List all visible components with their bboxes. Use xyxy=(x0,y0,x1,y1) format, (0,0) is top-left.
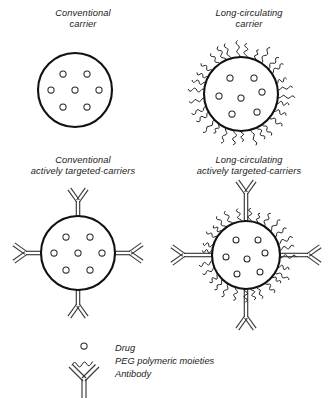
legend-symbols xyxy=(58,338,110,400)
antibody-segment xyxy=(247,182,256,194)
panel-label-long-circulating-actively-targeted: Long-circulating actively targeted-carri… xyxy=(166,155,332,178)
drug-circle xyxy=(51,250,57,256)
drug-circle xyxy=(48,87,54,93)
antibody-segment xyxy=(173,256,185,265)
drug-circle xyxy=(259,89,265,95)
antibody xyxy=(13,243,43,263)
legend: Drug PEG polymeric moieties Antibody xyxy=(58,338,288,400)
carrier-shell-circle xyxy=(212,221,280,289)
antibody-segment xyxy=(236,316,245,328)
drug-circle xyxy=(251,75,257,81)
label-line-2: carrier xyxy=(0,19,166,30)
antibody-segment xyxy=(129,243,141,252)
label-line-2: carrier xyxy=(166,19,332,30)
carrier-shell-circle xyxy=(204,57,278,131)
drug-circle xyxy=(216,93,222,99)
antibody xyxy=(68,188,88,218)
antibody-segment xyxy=(171,254,183,263)
antibody-segment xyxy=(79,190,88,202)
antibody xyxy=(68,288,88,318)
antibody-segment xyxy=(13,252,25,261)
figure-canvas: Conventional carrier Long-circulating ca… xyxy=(0,0,332,405)
drug-circle xyxy=(87,234,93,240)
drug-circle xyxy=(255,237,261,243)
drug-circle xyxy=(229,111,235,117)
antibody-segment xyxy=(129,254,141,263)
panel-long-circulating-actively-targeted-carriers: Long-circulating actively targeted-carri… xyxy=(166,155,332,330)
drug-circle xyxy=(84,104,90,110)
drug-circle xyxy=(227,75,233,81)
panel-label-conventional-actively-targeted: Conventional actively targeted-carriers xyxy=(0,155,166,178)
antibody-segment xyxy=(309,248,321,257)
antibody-segment xyxy=(15,243,27,252)
drug-circle xyxy=(60,104,66,110)
antibody-segment xyxy=(245,318,254,330)
antibody xyxy=(113,243,143,263)
antibody-segment xyxy=(77,306,86,318)
drug-circle xyxy=(60,71,66,77)
legend-label-drug: Drug xyxy=(115,342,214,355)
antibody-segment xyxy=(173,245,185,254)
legend-labels: Drug PEG polymeric moieties Antibody xyxy=(115,342,214,382)
antibody-segment xyxy=(79,304,88,316)
label-line-1: Conventional xyxy=(0,155,166,166)
label-line-1: Conventional xyxy=(0,8,166,19)
drug-icon xyxy=(81,343,87,349)
drug-circle xyxy=(233,237,239,243)
antibody-segment xyxy=(247,316,256,328)
drug-circle xyxy=(75,250,81,256)
antibody-segment xyxy=(15,254,27,263)
legend-label-antibody: Antibody xyxy=(115,368,214,381)
panel-conventional-actively-targeted-carriers: Conventional actively targeted-carriers xyxy=(0,155,166,320)
antibody-segment xyxy=(68,304,77,316)
antibody xyxy=(171,245,214,265)
drug-circle xyxy=(87,267,93,273)
drug-circle xyxy=(234,271,240,277)
drug-circle xyxy=(84,71,90,77)
drug-circle xyxy=(63,267,69,273)
carrier-diagram-conventional xyxy=(0,40,166,140)
antibody-segment xyxy=(239,180,248,192)
drug-circle xyxy=(262,250,268,256)
label-line-1: Long-circulating xyxy=(166,8,332,19)
panel-label-long-circulating-carrier: Long-circulating carrier xyxy=(166,8,332,31)
antibody xyxy=(236,180,256,223)
label-line-2: actively targeted-carriers xyxy=(0,166,166,177)
drug-circle xyxy=(63,234,69,240)
label-line-1: Long-circulating xyxy=(166,155,332,166)
antibody-segment xyxy=(307,256,319,265)
carrier-diagram-long-circulating xyxy=(166,40,332,148)
drug-circle xyxy=(257,269,263,275)
antibody-segment xyxy=(307,245,319,254)
antibody-segment xyxy=(71,188,80,200)
antibody-segment xyxy=(236,182,245,194)
drug-circle xyxy=(238,95,244,101)
drug-circle xyxy=(244,256,250,262)
carrier-diagram-long-circulating-targeted xyxy=(166,187,332,327)
drug-circle xyxy=(254,109,260,115)
drug-circle xyxy=(223,254,229,260)
panel-conventional-carrier: Conventional carrier xyxy=(0,8,166,140)
carrier-diagram-conventional-targeted xyxy=(0,187,166,319)
panel-long-circulating-carrier: Long-circulating carrier xyxy=(166,8,332,148)
label-line-2: actively targeted-carriers xyxy=(166,166,332,177)
drug-circle xyxy=(72,87,78,93)
legend-label-peg: PEG polymeric moieties xyxy=(115,355,214,368)
antibody-icon xyxy=(69,365,99,399)
drug-circle xyxy=(96,87,102,93)
drug-circle xyxy=(99,250,105,256)
peg-icon xyxy=(72,362,93,367)
panel-label-conventional-carrier: Conventional carrier xyxy=(0,8,166,31)
antibody-segment xyxy=(68,190,77,202)
antibody-segment xyxy=(131,246,143,255)
